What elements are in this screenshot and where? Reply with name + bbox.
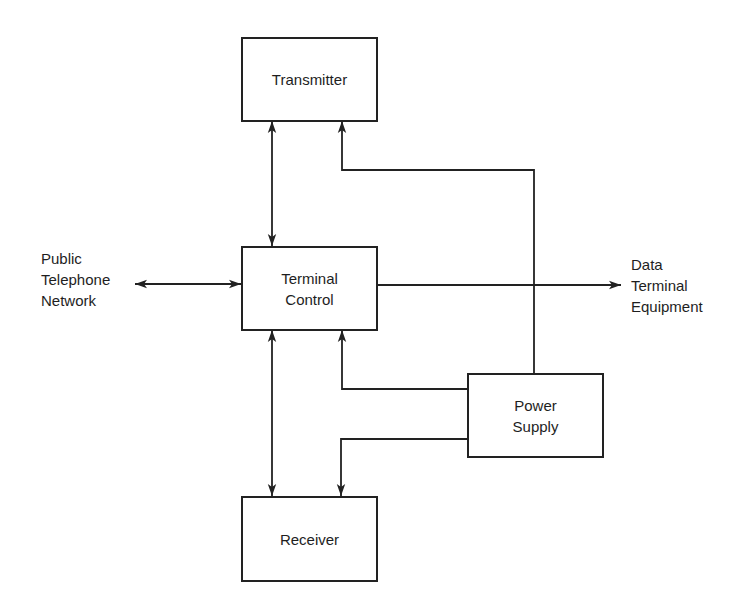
transmitter-label: Transmitter: [272, 69, 347, 90]
receiver-label: Receiver: [280, 529, 339, 550]
power-supply-block: Power Supply: [467, 373, 604, 458]
power-terminal-link: [342, 330, 467, 389]
public-telephone-network-label: Public Telephone Network: [41, 248, 110, 311]
power-receiver-link: [341, 439, 467, 496]
terminal-control-block: Terminal Control: [241, 246, 378, 331]
receiver-block: Receiver: [241, 496, 378, 582]
data-terminal-equipment-label: Data Terminal Equipment: [631, 254, 703, 317]
transmitter-block: Transmitter: [241, 37, 378, 122]
power-supply-label: Power Supply: [513, 395, 559, 437]
terminal-control-label: Terminal Control: [281, 268, 338, 310]
